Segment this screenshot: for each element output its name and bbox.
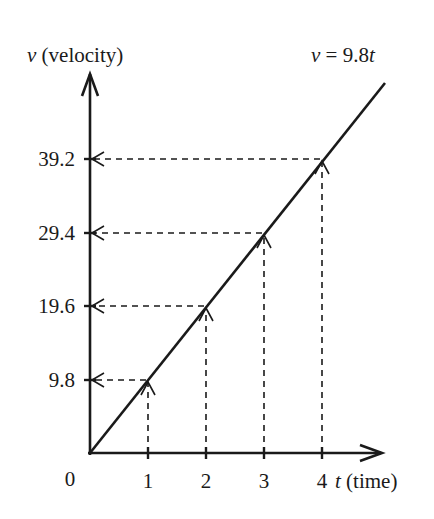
velocity-time-chart: 9.8 19.6 29.4 39.2 0 1 2 3 4 t (time) v … [0,0,434,519]
equation-rest: = 9.8 [320,43,369,67]
axes [82,74,382,461]
y-tick-label: 29.4 [38,221,75,245]
up-arrowheads [141,161,329,395]
x-axis-text: (time) [341,469,398,493]
y-axis-text: (velocity) [36,43,123,67]
x-tick-label: 1 [143,469,154,493]
horizontal-guides [92,159,320,380]
y-tick-label: 39.2 [38,147,75,171]
x-axis-label: t (time) [335,469,397,493]
equation-var-t: t [369,43,376,67]
y-tick-label: 9.8 [49,368,75,392]
vertical-guides [148,161,322,453]
x-tick-label: 4 [317,469,328,493]
left-arrowheads [92,152,104,387]
y-tick-label: 19.6 [38,294,75,318]
x-tick-label: 2 [201,469,212,493]
x-tick-label: 3 [259,469,270,493]
equation-label: v = 9.8t [311,43,376,67]
origin-label: 0 [65,467,76,491]
series-line-v-9.8t [90,83,385,453]
y-axis-label: v (velocity) [27,43,123,67]
